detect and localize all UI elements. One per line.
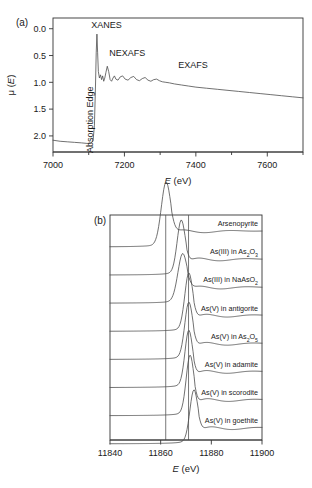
annotation-nexafs: NEXAFS	[109, 48, 145, 58]
panel-a-ytick-label: 1.5	[33, 104, 46, 114]
panel-b-spectrum-label: As(V) in goethite	[205, 416, 258, 425]
panel-b-tag: (b)	[94, 215, 106, 226]
panel-a-ylabel: μ (E)	[5, 75, 16, 96]
panel-a-ytick-label: 2.0	[33, 131, 46, 141]
panel-b-spectrum-label: As(V) in As2O5	[211, 332, 258, 343]
annotation-xanes: XANES	[91, 20, 122, 30]
panel-b-spectrum-label: As(III) in As2O3	[210, 247, 258, 258]
panel-b-spectrum-curve	[110, 182, 262, 247]
panel-a-tag: (a)	[16, 17, 28, 28]
panel-a-xtick-label: 7000	[43, 160, 63, 170]
panel-b-spectrum-label: As(V) in scorodite	[201, 388, 258, 397]
panel-a-ytick-label: 0.0	[33, 24, 46, 34]
panel-b-xtick-label: 11880	[199, 448, 223, 458]
panel-b-spectrum-label: Arsenopyrite	[218, 219, 258, 228]
panel-a-ytick-label: 0.5	[33, 51, 46, 61]
panel-a-ytick-label: 1.0	[33, 78, 46, 88]
panel-a-xtick-label: 7600	[257, 160, 277, 170]
panel-b-xlabel: E (eV)	[173, 463, 200, 474]
panel-a-xlabel: E (eV)	[165, 175, 192, 186]
panel-b-xtick-label: 11900	[250, 448, 274, 458]
panel-b-xtick-label: 11840	[98, 448, 122, 458]
annotation-exafs: EXAFS	[178, 60, 208, 70]
figure-container: 2.01.51.00.50.07000720074007600(a)XANESN…	[0, 0, 312, 488]
panel-b-xtick-label: 11860	[148, 448, 172, 458]
panel-a-xtick-label: 7400	[186, 160, 206, 170]
panel-a-xtick-label: 7200	[114, 160, 134, 170]
panel-b-spectrum-label: As(V) in adamite	[205, 360, 258, 369]
annotation-absorption-edge: Absorption Edge	[85, 87, 95, 154]
panel-b-spectrum-label: As(V) in antigorite	[201, 304, 258, 313]
panel-b-spectrum-label: As(III) in NaAsO2	[203, 275, 258, 286]
figure-svg: 2.01.51.00.50.07000720074007600(a)XANESN…	[0, 0, 312, 488]
